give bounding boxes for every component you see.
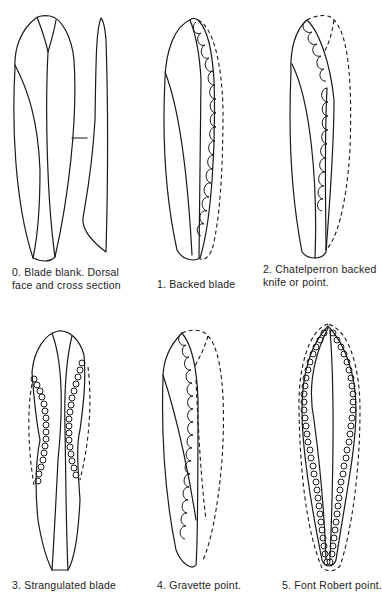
- caption-panel-3: 3. Strangulated blade: [12, 579, 116, 592]
- caption-panel-5-line1: 5. Font Robert point.: [282, 579, 382, 592]
- backed-blade-drawing: [164, 19, 223, 260]
- caption-panel-1: 1. Backed blade: [157, 278, 235, 291]
- font-robert-point-drawing: [299, 324, 360, 571]
- caption-panel-0: 0. Blade blank. Dorsal face and cross se…: [12, 266, 121, 291]
- caption-panel-0-line2: face and cross section: [12, 279, 121, 292]
- blade-blank-drawing: [14, 15, 108, 260]
- strangulated-blade-drawing: [29, 331, 90, 570]
- caption-panel-1-line1: 1. Backed blade: [157, 278, 235, 291]
- retouch-scars-left-edge: [193, 22, 216, 236]
- caption-panel-4-line1: 4. Gravette point.: [157, 579, 241, 592]
- caption-panel-5: 5. Font Robert point.: [282, 579, 382, 592]
- caption-panel-2-line2: knife or point.: [263, 276, 377, 289]
- caption-panel-2-line1: 2. Chatelperron backed: [263, 263, 377, 276]
- caption-panel-2: 2. Chatelperron backed knife or point.: [263, 263, 377, 288]
- gravette-point-drawing: [163, 330, 224, 567]
- caption-panel-3-line1: 3. Strangulated blade: [12, 579, 116, 592]
- chatelperron-drawing: [290, 16, 351, 259]
- retouch-scars-bilateral: [301, 330, 356, 565]
- caption-panel-0-line1: 0. Blade blank. Dorsal: [12, 266, 121, 279]
- caption-panel-4: 4. Gravette point.: [157, 579, 241, 592]
